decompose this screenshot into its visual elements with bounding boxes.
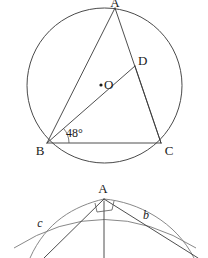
side-label-b: b — [143, 208, 149, 222]
geometry-figure-container: A B C O D 48° A c b — [0, 0, 208, 258]
vertex-label-a-lower: A — [98, 181, 108, 196]
triangle-right-leg — [104, 199, 198, 258]
side-label-c: c — [37, 216, 43, 230]
right-angle-marker — [95, 201, 114, 212]
right-triangle-arcs-figure: A c b — [0, 0, 208, 258]
